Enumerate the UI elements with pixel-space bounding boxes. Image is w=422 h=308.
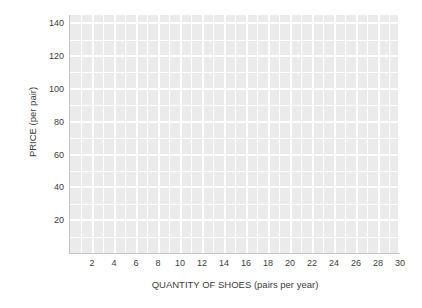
gridline-vertical-minor (147, 15, 148, 253)
gridline-horizontal-major (70, 22, 400, 24)
gridline-horizontal-major (70, 219, 400, 221)
gridline-vertical-major (180, 15, 182, 253)
gridline-vertical-minor (323, 15, 324, 253)
gridline-vertical-minor (389, 15, 390, 253)
gridline-vertical-major (378, 15, 380, 253)
gridline-horizontal-minor (70, 138, 400, 139)
horizontal-gridlines (70, 15, 400, 253)
gridline-vertical-minor (235, 15, 236, 253)
gridline-vertical-minor (367, 15, 368, 253)
gridline-horizontal-minor (70, 237, 400, 238)
gridline-vertical-minor (257, 15, 258, 253)
gridline-vertical-major (92, 15, 94, 253)
y-axis-line (69, 15, 70, 253)
gridline-horizontal-minor (70, 171, 400, 172)
gridline-vertical-minor (125, 15, 126, 253)
gridline-vertical-major (268, 15, 270, 253)
gridline-horizontal-minor (70, 72, 400, 73)
gridline-vertical-major (246, 15, 248, 253)
gridline-vertical-major (158, 15, 160, 253)
gridline-vertical-minor (279, 15, 280, 253)
gridline-vertical-minor (345, 15, 346, 253)
y-axis-title: PRICE (per pair) (27, 22, 39, 222)
gridline-horizontal-major (70, 154, 400, 156)
gridline-horizontal-minor (70, 204, 400, 205)
gridline-vertical-minor (191, 15, 192, 253)
gridline-vertical-major (114, 15, 116, 253)
gridline-vertical-major (398, 15, 400, 253)
gridline-vertical-minor (301, 15, 302, 253)
gridline-vertical-major (136, 15, 138, 253)
x-axis-tick-labels: 24681012141618202224262830 (70, 258, 400, 272)
gridline-horizontal-major (70, 186, 400, 188)
gridline-horizontal-major (70, 121, 400, 123)
gridline-vertical-major (224, 15, 226, 253)
gridline-horizontal-major (70, 55, 400, 57)
gridline-horizontal-major (70, 88, 400, 90)
x-tick-label: 30 (385, 258, 415, 269)
gridline-vertical-minor (103, 15, 104, 253)
x-axis-title: QUANTITY OF SHOES (pairs per year) (70, 279, 400, 291)
gridline-vertical-major (312, 15, 314, 253)
gridline-vertical-minor (213, 15, 214, 253)
chart-container: 20406080100120140 2468101214161820222426… (0, 0, 422, 308)
vertical-gridlines (70, 15, 400, 253)
gridline-vertical-major (290, 15, 292, 253)
gridline-vertical-major (334, 15, 336, 253)
gridline-vertical-minor (169, 15, 170, 253)
plot-area (70, 15, 400, 253)
gridline-vertical-minor (81, 15, 82, 253)
x-axis-line (69, 253, 400, 254)
gridline-vertical-major (202, 15, 204, 253)
gridline-horizontal-minor (70, 105, 400, 106)
gridline-vertical-major (356, 15, 358, 253)
gridline-horizontal-minor (70, 40, 400, 41)
